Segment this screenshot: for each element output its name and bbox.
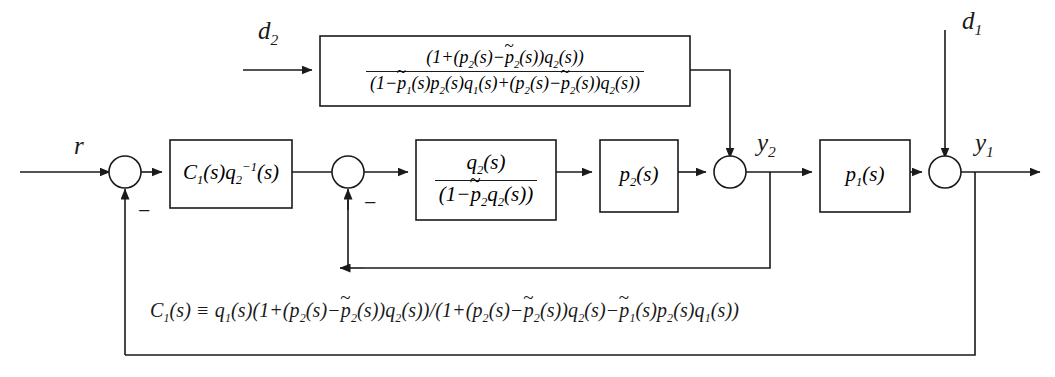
summing-junction-y1-circle (929, 156, 961, 188)
inner-filter-denominator: (1−~p2q2(s)) (435, 181, 537, 210)
summing-junction-inner-circle (332, 156, 364, 188)
plant-p1-expression: p1(s) (846, 162, 885, 190)
summing-junction-outer-circle (109, 156, 141, 188)
plant-p1-block-content: p1(s) (820, 140, 910, 212)
feedforward-fraction: (1+(p2(s)−~p2(s))q2(s)) (1−~p1(s)p2(s)q1… (366, 47, 644, 95)
inner-filter-block-content: q2(s) (1−~p2q2(s)) (416, 140, 556, 220)
signal-label-r: r (74, 133, 84, 158)
controller-definition-equation: C1(s) ≡ q1(s)(1+(p2(s)−~p2(s))q2(s))/(1+… (150, 300, 739, 324)
plant-p2-block-content: p2(s) (600, 140, 678, 212)
minus-sign-inner: − (364, 192, 376, 214)
block-diagram: d2 d1 r y2 y1 − − (1+(p2(s)−~p2(s))q2(s)… (0, 0, 1055, 377)
inner-filter-fraction: q2(s) (1−~p2q2(s)) (435, 150, 537, 209)
signal-label-d2: d2 (258, 18, 278, 48)
controller-block-content: C1(s)q2−1(s) (170, 140, 292, 208)
inner-filter-numerator: q2(s) (435, 150, 537, 180)
wire-feedforward-to-sum-y2 (690, 70, 730, 158)
minus-sign-outer: − (138, 200, 150, 222)
signal-label-d1: d1 (962, 8, 982, 38)
feedforward-numerator: (1+(p2(s)−~p2(s))q2(s)) (366, 47, 644, 72)
disturbance-feedforward-block-content: (1+(p2(s)−~p2(s))q2(s)) (1−~p1(s)p2(s)q1… (320, 36, 690, 106)
controller-expression: C1(s)q2−1(s) (183, 160, 279, 188)
summing-junction-y2-circle (714, 156, 746, 188)
plant-p2-expression: p2(s) (620, 162, 659, 190)
signal-label-y2: y2 (757, 130, 776, 160)
signal-label-y1: y1 (975, 130, 994, 160)
feedforward-denominator: (1−~p1(s)p2(s)q1(s)+(p2(s)−~p2(s))q2(s)) (366, 72, 644, 96)
